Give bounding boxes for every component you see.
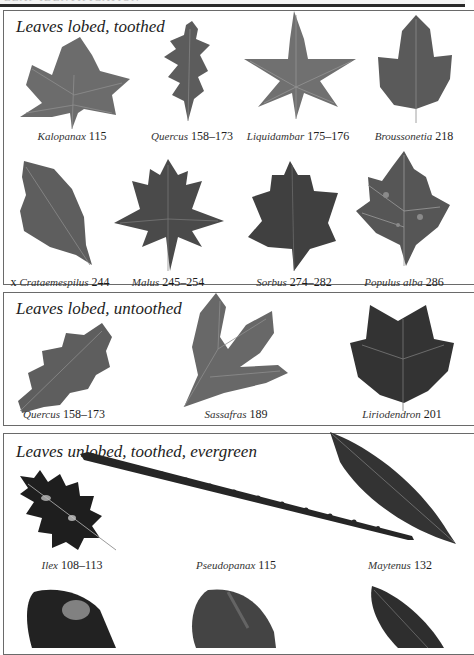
leaf-image-partial-1 [24,588,119,648]
section-unlobed-toothed-evergreen: Leaves unlobed, toothed, evergreen Ilex … [3,433,474,655]
leaf-image-quercus-toothed [162,21,214,121]
leaf-image-quercus-untoothed [16,323,116,413]
running-head: LEAF IDENTIFICATION [4,0,140,3]
leaf-image-sassafras [180,293,295,408]
caption-malus: Malus 245–254 [132,275,205,290]
leaf-image-maytenus [328,432,458,548]
caption-populus-alba: Populus alba 286 [364,275,443,290]
header-rule [0,4,465,7]
leaf-image-liriodendron [348,299,458,411]
leaf-image-liquidambar [240,11,360,119]
caption-crataemespilus: x Crataemespilus 244 [10,275,109,290]
leaf-image-broussonetia [376,15,456,123]
caption-pseudopanax: Pseudopanax 115 [196,558,276,573]
leaf-image-crataemespilus [20,161,90,269]
caption-broussonetia: Broussonetia 218 [375,129,454,144]
section-lobed-toothed: Leaves lobed, toothed Kalopanax 115 Quer… [3,10,474,285]
caption-sorbus: Sorbus 274–282 [256,275,332,290]
caption-sassafras: Sassafras 189 [204,407,267,422]
leaf-image-sorbus [248,161,340,271]
section-lobed-untoothed: Leaves lobed, untoothed Quercus 158–173 … [3,292,474,426]
caption-liquidambar: Liquidambar 175–176 [247,129,349,144]
caption-liriodendron: Liriodendron 201 [362,407,441,422]
leaf-image-populus-alba [356,151,452,266]
leaf-image-partial-3 [368,584,448,648]
caption-quercus: Quercus 158–173 [151,129,233,144]
caption-quercus-untoothed: Quercus 158–173 [23,407,105,422]
leaf-image-malus [112,159,227,271]
caption-maytenus: Maytenus 132 [368,558,432,573]
leaf-image-kalopanax [12,35,132,125]
section-title: Leaves lobed, untoothed [16,299,182,319]
section-title: Leaves lobed, toothed [16,17,165,37]
caption-ilex: Ilex 108–113 [41,558,102,573]
caption-kalopanax: Kalopanax 115 [38,129,107,144]
leaf-image-partial-2 [188,588,278,648]
